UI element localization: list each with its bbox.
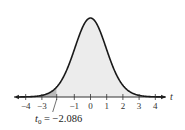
tick-label: 2 xyxy=(121,101,126,111)
tick-label: 1 xyxy=(104,101,109,111)
tick-label: −1 xyxy=(70,101,80,111)
shaded-areas xyxy=(16,18,165,97)
tick-label: 4 xyxy=(153,101,158,111)
critical-value-label: t0 = −2.086 xyxy=(35,113,82,126)
tick-label: 3 xyxy=(137,101,142,111)
body-fill xyxy=(57,18,165,97)
leader-line xyxy=(53,99,57,112)
t-distribution-chart: t −4−3−101234 t0 = −2.086 xyxy=(0,0,185,130)
tick-label: 0 xyxy=(88,101,93,111)
tick-label: −3 xyxy=(37,101,47,111)
tick-label: −4 xyxy=(21,101,31,111)
axis-variable-label: t xyxy=(170,91,173,102)
